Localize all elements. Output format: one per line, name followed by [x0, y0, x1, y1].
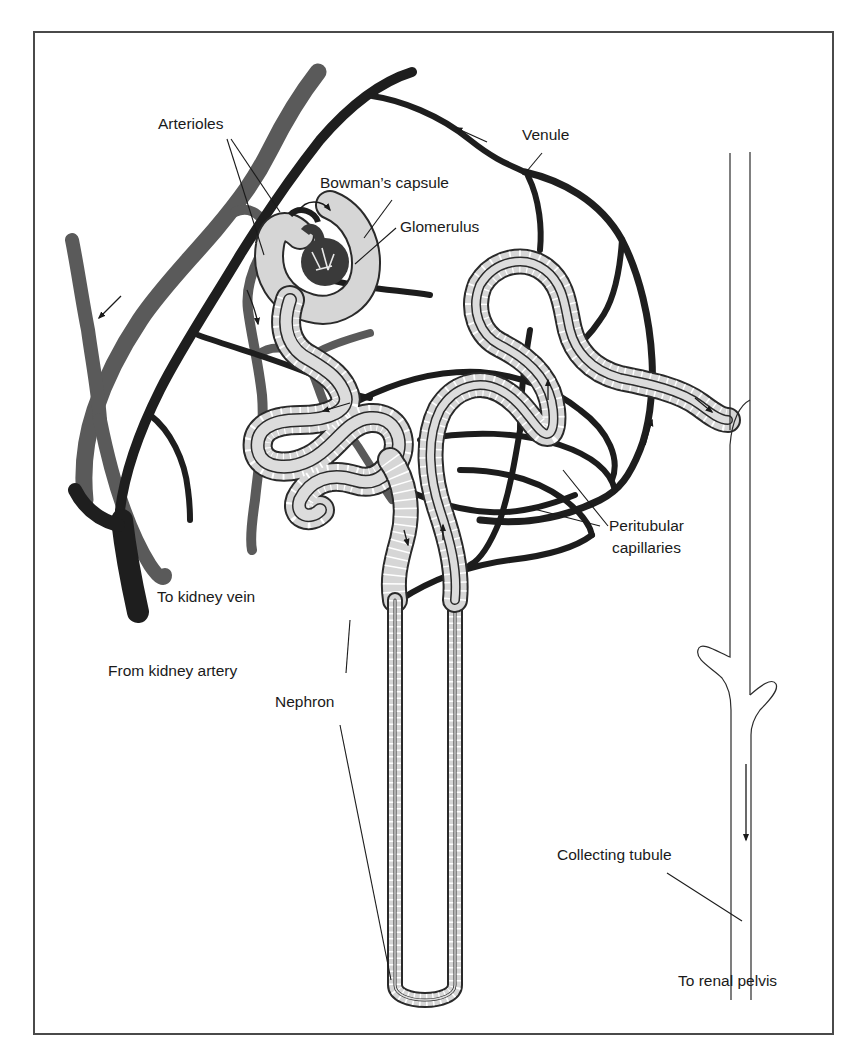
label-venule: Venule [522, 126, 569, 143]
label-bowmans-capsule: Bowman’s capsule [320, 174, 449, 191]
nephron-tubule [258, 205, 728, 1000]
vein-flow-arrow [99, 296, 121, 318]
collecting-tubule [698, 152, 777, 1000]
label-glomerulus: Glomerulus [400, 218, 479, 235]
label-nephron: Nephron [275, 693, 334, 710]
label-to-kidney-vein: To kidney vein [157, 588, 255, 605]
label-peritubular-line2: capillaries [612, 539, 681, 556]
label-arterioles: Arterioles [158, 115, 224, 132]
label-collecting-tubule: Collecting tubule [557, 846, 672, 863]
label-from-kidney-artery: From kidney artery [108, 662, 237, 679]
label-peritubular-line1: Peritubular [609, 517, 684, 534]
label-to-renal-pelvis: To renal pelvis [678, 972, 777, 989]
nephron-diagram: Arterioles Venule Bowman’s capsule Glome… [0, 0, 867, 1057]
